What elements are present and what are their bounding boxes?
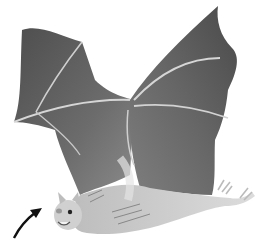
snout (56, 209, 62, 214)
eye (68, 210, 72, 214)
right-wing (127, 6, 237, 195)
bat-figure (0, 0, 265, 247)
bat-illustration (0, 0, 265, 247)
bat-head (54, 192, 82, 230)
left-wing (14, 28, 134, 195)
arrow-icon (14, 208, 42, 238)
